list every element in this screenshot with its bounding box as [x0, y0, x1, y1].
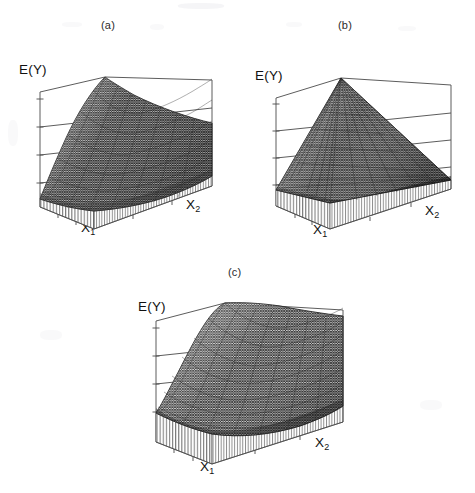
- scan-artifact: [420, 400, 442, 410]
- panel-b: (b) E(Y) X1 X2: [237, 0, 475, 246]
- panel-a: (a) E(Y) X1 X2: [0, 0, 237, 246]
- panel-b-plot: [237, 0, 475, 246]
- panel-c: (c) E(Y) X1 X2: [110, 246, 375, 493]
- scan-artifact: [40, 330, 62, 340]
- panel-c-plot: [110, 246, 375, 493]
- response-surface-figure: (a) E(Y) X1 X2: [0, 0, 475, 493]
- panel-a-plot: [0, 0, 237, 246]
